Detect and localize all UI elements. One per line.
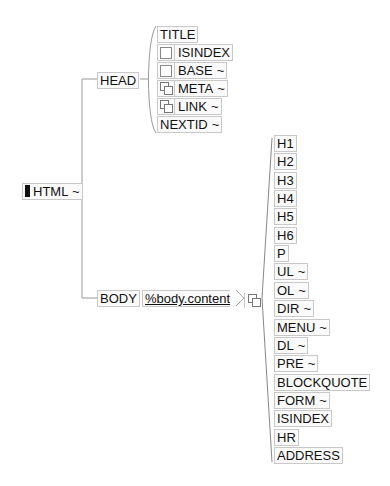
node-label: P [277, 246, 286, 261]
node-label: H3 [277, 173, 294, 188]
root-marker-icon [25, 185, 30, 197]
node-label: MENU [277, 320, 315, 335]
repeat-suffix: ~ [298, 264, 306, 279]
node-label: ISINDEX [277, 411, 329, 426]
repeat-suffix: ~ [303, 301, 311, 316]
node-label: LINK [178, 99, 207, 114]
repeat-suffix: ~ [217, 81, 225, 96]
optional-icon [160, 47, 172, 59]
html-root-node[interactable]: HTML ~ [22, 183, 83, 200]
node-label: H5 [277, 209, 294, 224]
body-child-isindex[interactable]: ISINDEX [274, 410, 332, 427]
repeat-icon [248, 294, 261, 307]
body-child-dir[interactable]: DIR~ [274, 300, 314, 317]
separator [244, 293, 245, 308]
repeat-suffix: ~ [217, 63, 225, 78]
separator [174, 63, 175, 78]
head-child-base[interactable]: BASE~ [157, 62, 227, 79]
node-label: HEAD [100, 73, 136, 88]
head-child-title[interactable]: TITLE [157, 26, 198, 43]
node-label: BASE [178, 63, 213, 78]
node-label: H1 [277, 136, 294, 151]
repeat-suffix: ~ [308, 356, 316, 371]
node-label: ISINDEX [178, 45, 230, 60]
repeat-icon [160, 82, 173, 95]
node-label: NEXTID [160, 117, 208, 132]
node-label: UL [277, 264, 294, 279]
body-child-pre[interactable]: PRE~ [274, 355, 318, 372]
repeat-suffix: ~ [319, 393, 327, 408]
separator [174, 99, 175, 114]
body-content-ref-node[interactable]: %body.content [142, 290, 230, 307]
head-child-isindex[interactable]: ISINDEX [157, 44, 233, 61]
body-child-h3[interactable]: H3 [274, 172, 297, 189]
repeat-suffix: ~ [72, 184, 80, 199]
head-child-link[interactable]: LINK~ [157, 98, 222, 115]
node-label: HR [277, 430, 296, 445]
node-label: FORM [277, 393, 315, 408]
body-node[interactable]: BODY [97, 290, 140, 307]
node-label: H6 [277, 228, 294, 243]
body-content-repeat [246, 291, 264, 306]
body-child-p[interactable]: P [274, 245, 289, 262]
node-label: PRE [277, 356, 304, 371]
content-ref-label: %body.content [145, 291, 230, 306]
node-label: OL [277, 283, 294, 298]
body-child-menu[interactable]: MENU~ [274, 319, 330, 336]
body-child-h1[interactable]: H1 [274, 135, 297, 152]
node-label: H2 [277, 154, 294, 169]
body-child-h5[interactable]: H5 [274, 208, 297, 225]
node-label: BLOCKQUOTE [277, 375, 367, 390]
node-label: DL [277, 338, 294, 353]
head-node[interactable]: HEAD [97, 72, 139, 89]
body-child-ul[interactable]: UL~ [274, 263, 308, 280]
separator [174, 45, 175, 60]
optional-icon [160, 65, 172, 77]
node-label: HTML [33, 184, 68, 199]
node-label: META [178, 81, 213, 96]
body-child-dl[interactable]: DL~ [274, 337, 308, 354]
repeat-suffix: ~ [298, 283, 306, 298]
repeat-icon [160, 100, 173, 113]
body-child-h4[interactable]: H4 [274, 190, 297, 207]
content-arrow [236, 290, 244, 306]
node-label: TITLE [160, 27, 195, 42]
separator [174, 81, 175, 96]
repeat-suffix: ~ [211, 99, 219, 114]
node-label: DIR [277, 301, 299, 316]
repeat-suffix: ~ [319, 320, 327, 335]
body-child-form[interactable]: FORM~ [274, 392, 330, 409]
head-child-meta[interactable]: META~ [157, 80, 228, 97]
body-child-h2[interactable]: H2 [274, 153, 297, 170]
body-child-blockquote[interactable]: BLOCKQUOTE [274, 374, 370, 391]
head-child-nextid[interactable]: NEXTID~ [157, 116, 222, 133]
repeat-suffix: ~ [212, 117, 220, 132]
head-group-bracket [149, 26, 157, 133]
node-label: H4 [277, 191, 294, 206]
node-label: BODY [100, 291, 137, 306]
body-child-address[interactable]: ADDRESS [274, 447, 343, 464]
repeat-suffix: ~ [298, 338, 306, 353]
body-child-ol[interactable]: OL~ [274, 282, 309, 299]
node-label: ADDRESS [277, 448, 340, 463]
body-child-h6[interactable]: H6 [274, 227, 297, 244]
body-child-hr[interactable]: HR [274, 429, 299, 446]
